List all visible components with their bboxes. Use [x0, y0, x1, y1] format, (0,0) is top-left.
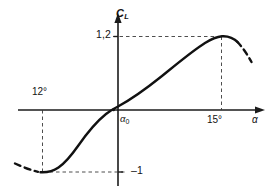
lift-curve-solid	[41, 36, 239, 172]
lift-curve-dashed-left	[15, 164, 38, 172]
x-tick-label-negative-stall: 12°	[32, 87, 47, 97]
x-tick-label-positive-stall: 15°	[207, 115, 222, 125]
y-axis-label-subscript: L	[124, 12, 129, 21]
lift-curve-figure: CL 1,2 –1 12° 15° α0 α	[0, 0, 270, 192]
lift-curve-dashed-right	[237, 42, 252, 63]
y-axis-label: CL	[116, 8, 129, 19]
x-axis-arrowhead	[255, 106, 265, 113]
zero-lift-angle-label: α0	[120, 114, 129, 124]
zero-lift-angle-subscript: 0	[125, 118, 129, 125]
y-tick-label-1-2: 1,2	[96, 29, 111, 40]
x-axis-label: α	[252, 115, 258, 125]
y-tick-label-minus-1: –1	[131, 165, 143, 176]
zero-lift-angle-marker	[112, 108, 115, 111]
y-axis-label-base: C	[116, 7, 124, 19]
